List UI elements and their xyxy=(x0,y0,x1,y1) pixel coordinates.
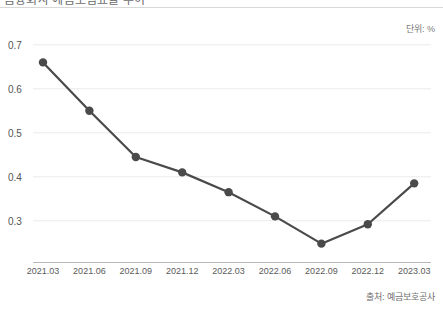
x-axis-tick-label: 2021.12 xyxy=(166,266,199,276)
y-axis-tick-label: 0.4 xyxy=(8,171,22,182)
data-point-marker[interactable] xyxy=(410,179,418,187)
y-axis-tick-label: 0.7 xyxy=(8,39,22,50)
source-note: 출처: 예금보호공사 xyxy=(366,290,435,303)
data-point-marker[interactable] xyxy=(39,58,47,66)
x-axis-tick-label: 2021.06 xyxy=(73,266,106,276)
data-point-marker[interactable] xyxy=(224,188,232,196)
data-point-marker[interactable] xyxy=(271,212,279,220)
y-axis-tick-label: 0.3 xyxy=(8,215,22,226)
x-axis-tick-label: 2021.03 xyxy=(27,266,60,276)
data-point-marker[interactable] xyxy=(85,107,93,115)
x-axis-tick-label: 2022.03 xyxy=(212,266,245,276)
line-chart-svg xyxy=(33,36,431,263)
x-axis-line xyxy=(33,262,431,263)
x-axis-tick-label: 2023.03 xyxy=(398,266,431,276)
x-axis-tick-label: 2021.09 xyxy=(120,266,153,276)
x-axis-tick-label: 2022.09 xyxy=(305,266,338,276)
series-line xyxy=(43,62,414,243)
x-axis-tick-label: 2022.06 xyxy=(259,266,292,276)
data-point-marker[interactable] xyxy=(178,168,186,176)
plot-area xyxy=(33,36,431,263)
y-axis-tick-label: 0.5 xyxy=(8,127,22,138)
data-point-marker[interactable] xyxy=(317,239,325,247)
y-axis-tick-label: 0.6 xyxy=(8,83,22,94)
x-axis-tick-label: 2022.12 xyxy=(352,266,385,276)
x-axis-labels: 2021.032021.062021.092021.122022.032022.… xyxy=(0,266,443,286)
data-point-marker[interactable] xyxy=(364,220,372,228)
data-point-marker[interactable] xyxy=(132,153,140,161)
chart-page: 금융회사 예금보험료율 추이 단위: % 0.30.40.50.60.7 202… xyxy=(0,0,443,313)
